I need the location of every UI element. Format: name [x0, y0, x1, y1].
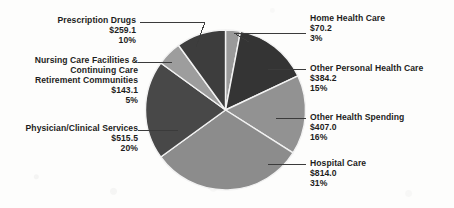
label-home-health-care: Home Health Care $70.2 3%	[310, 13, 385, 43]
label-physician-clinical-services-name: Physician/Clinical Services	[26, 123, 138, 133]
label-other-health-spending-percent: 16%	[310, 132, 404, 142]
label-nursing-care-name-line1: Nursing Care Facilities &	[35, 55, 138, 65]
label-prescription-drugs-name: Prescription Drugs	[58, 15, 136, 25]
label-nursing-care-name-line2: Continuing Care	[35, 65, 138, 75]
label-nursing-care: Nursing Care Facilities & Continuing Car…	[35, 55, 138, 105]
pie-slice-group: Home Health Care $70.2 3%Other Personal …	[146, 30, 306, 190]
label-nursing-care-name-line3: Retirement Communities	[35, 75, 138, 85]
label-hospital-care-percent: 31%	[310, 178, 366, 188]
label-physician-clinical-services-value: $515.5	[26, 133, 138, 143]
label-prescription-drugs-value: $259.1	[58, 25, 136, 35]
label-other-health-spending: Other Health Spending $407.0 16%	[310, 112, 404, 142]
label-home-health-care-percent: 3%	[310, 33, 385, 43]
label-other-personal-health-care-percent: 15%	[310, 83, 423, 93]
label-home-health-care-name: Home Health Care	[310, 13, 385, 23]
label-nursing-care-value: $143.1	[35, 85, 138, 95]
label-prescription-drugs-percent: 10%	[58, 35, 136, 45]
label-other-personal-health-care-value: $384.2	[310, 73, 423, 83]
pie-chart-figure: Home Health Care $70.2 3%Other Personal …	[0, 0, 454, 208]
label-other-health-spending-value: $407.0	[310, 122, 404, 132]
label-physician-clinical-services-percent: 20%	[26, 143, 138, 153]
label-hospital-care: Hospital Care $814.0 31%	[310, 158, 366, 188]
label-other-health-spending-name: Other Health Spending	[310, 112, 404, 122]
label-other-personal-health-care: Other Personal Health Care $384.2 15%	[310, 63, 423, 93]
label-other-personal-health-care-name: Other Personal Health Care	[310, 63, 423, 73]
label-physician-clinical-services: Physician/Clinical Services $515.5 20%	[26, 123, 138, 153]
label-hospital-care-value: $814.0	[310, 168, 366, 178]
label-home-health-care-value: $70.2	[310, 23, 385, 33]
label-hospital-care-name: Hospital Care	[310, 158, 366, 168]
label-prescription-drugs: Prescription Drugs $259.1 10%	[58, 15, 136, 45]
label-nursing-care-percent: 5%	[35, 95, 138, 105]
